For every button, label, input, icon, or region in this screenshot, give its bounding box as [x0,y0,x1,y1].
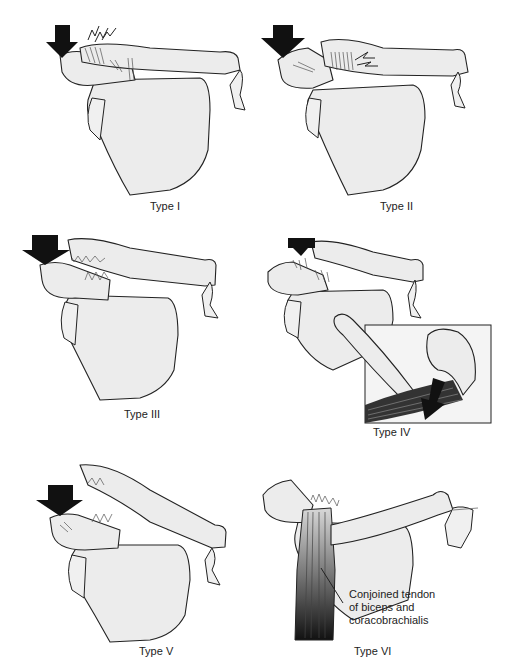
force-arrow-icon [22,235,70,265]
force-arrow-icon [288,238,315,256]
panel-type-3: Type III [0,220,253,450]
caption-type-1: Type I [150,200,180,212]
caption-type-4: Type IV [373,426,410,438]
panel-type-5: Type V [0,450,253,667]
annotation-conjoined-tendon: Conjoined tendon of biceps and coracobra… [349,588,435,627]
conjoined-tendon [295,508,335,640]
caption-type-2: Type II [380,200,413,212]
panel-type-1: Type I [0,0,253,220]
panel-type-2: Type II [253,0,507,220]
caption-type-5: Type V [139,645,173,657]
acromioclavicular-illustration-type-6 [253,450,507,667]
caption-type-6: Type VI [354,645,391,657]
panel-type-6: Conjoined tendon of biceps and coracobra… [253,450,507,667]
caption-type-3: Type III [124,408,160,420]
acromioclavicular-illustration-type-5 [0,450,253,667]
acromioclavicular-illustration-type-2 [253,0,507,220]
force-arrow-icon [36,485,83,516]
panel-type-4: Type IV [253,220,507,450]
acromioclavicular-illustration-type-1 [0,0,253,220]
acromioclavicular-illustration-type-4 [253,220,507,450]
